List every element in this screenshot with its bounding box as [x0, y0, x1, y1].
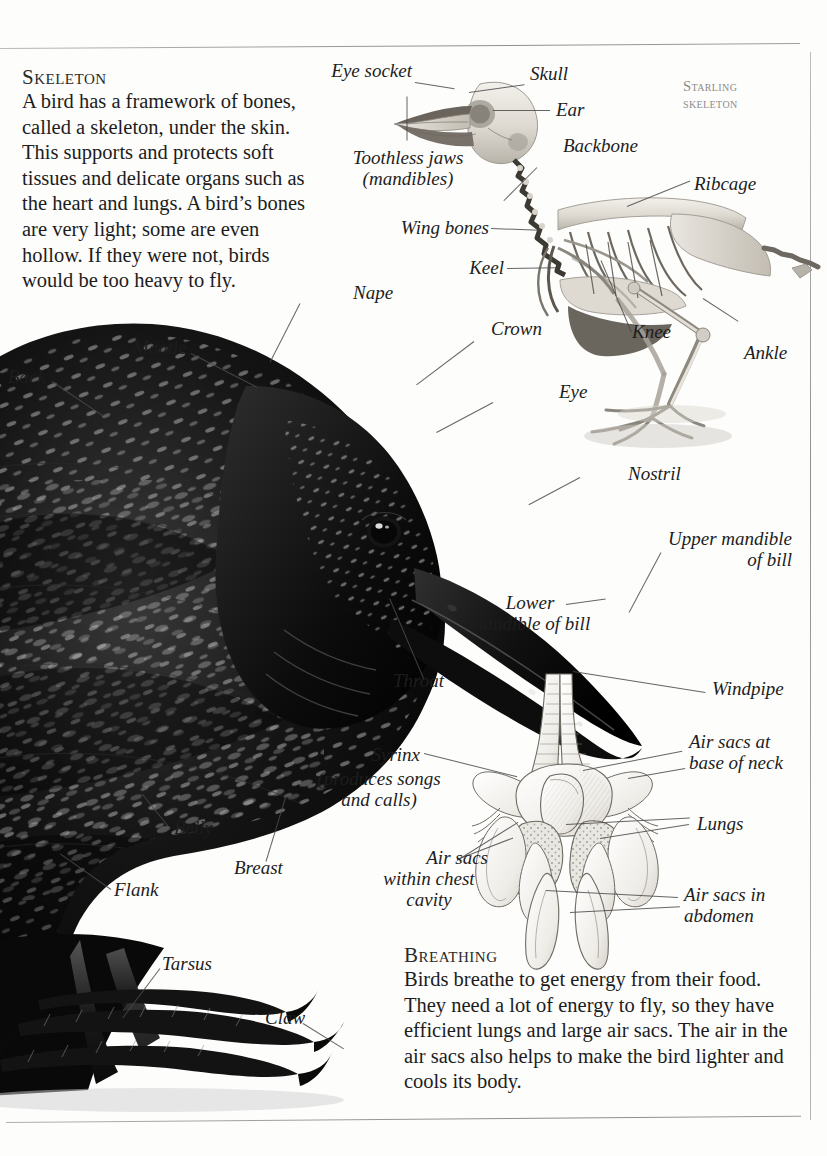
- label-skull: Skull: [530, 63, 568, 84]
- label-mantle: Mantle: [133, 337, 187, 358]
- label-eye: Eye: [559, 381, 587, 402]
- label-upper-mandible: Upper mandible of bill: [640, 528, 792, 570]
- label-air-sacs-neck: Air sacs at base of neck: [689, 731, 783, 773]
- label-lower-mandible-line1: Lower: [452, 592, 608, 613]
- label-upper-mandible-line1: Upper mandible: [640, 528, 792, 549]
- leader-ear: [493, 110, 550, 111]
- label-wing-bones: Wing bones: [365, 217, 489, 238]
- label-flank: Flank: [114, 879, 158, 900]
- figure-caption-starling-skeleton: Starling skeleton: [683, 78, 793, 112]
- figure-caption-line2: skeleton: [683, 95, 793, 112]
- label-lungs: Lungs: [697, 813, 743, 834]
- right-margin-rule: [810, 52, 811, 1120]
- breathing-text-block: Breathing Birds breathe to get energy fr…: [404, 944, 794, 1095]
- label-air-sacs-chest-line1: Air sacs: [370, 847, 488, 868]
- skeleton-heading: Skeleton: [22, 66, 322, 88]
- label-syrinx: Syrinx: [320, 744, 420, 765]
- skeleton-text-block: Skeleton A bird has a framework of bones…: [22, 66, 322, 294]
- figure-caption-line1: Starling: [683, 78, 793, 95]
- label-crown: Crown: [491, 318, 542, 339]
- label-syrinx-note: (produces songs and calls): [306, 768, 452, 810]
- label-air-sacs-chest-line3: cavity: [370, 889, 488, 910]
- label-toothless-jaws-line2: (mandibles): [338, 168, 478, 189]
- label-air-sacs-neck-line1: Air sacs at: [689, 731, 783, 752]
- label-eye-socket: Eye socket: [300, 60, 412, 81]
- label-toothless-jaws-line1: Toothless jaws: [338, 147, 478, 168]
- leader-nostril: [529, 477, 581, 505]
- skeleton-paragraph: A bird has a framework of bones, called …: [22, 89, 322, 294]
- label-air-sacs-abdomen-line2: abdomen: [684, 905, 765, 926]
- top-rule: [0, 43, 800, 49]
- label-air-sacs-chest: Air sacs within chest cavity: [370, 847, 488, 910]
- breathing-paragraph: Birds breathe to get energy from their f…: [404, 967, 794, 1095]
- label-air-sacs-neck-line2: base of neck: [689, 752, 783, 773]
- label-lower-mandible-line2: mandible of bill: [452, 613, 608, 634]
- label-backbone: Backbone: [563, 135, 638, 156]
- label-ankle: Ankle: [744, 342, 787, 363]
- label-air-sacs-chest-line2: within chest: [370, 868, 488, 889]
- label-nostril: Nostril: [628, 463, 681, 484]
- label-claw: Claw: [265, 1007, 305, 1028]
- label-tarsus: Tarsus: [162, 953, 212, 974]
- label-throat: Throat: [393, 670, 444, 691]
- label-air-sacs-abdomen-line1: Air sacs in: [684, 884, 765, 905]
- leader-toothless: [407, 97, 408, 141]
- label-ear: Ear: [556, 99, 585, 120]
- label-lower-mandible: Lower mandible of bill: [452, 592, 608, 634]
- label-syrinx-note-line1: (produces songs: [306, 768, 452, 789]
- label-back: Back: [8, 366, 46, 387]
- label-ribcage: Ribcage: [694, 173, 756, 194]
- breathing-heading: Breathing: [404, 944, 794, 966]
- ear-mark: [508, 133, 528, 151]
- label-toothless-jaws: Toothless jaws (mandibles): [338, 147, 478, 189]
- label-keel: Keel: [418, 257, 504, 278]
- label-breast: Breast: [234, 857, 283, 878]
- label-nape: Nape: [353, 282, 393, 303]
- label-knee: Knee: [632, 321, 671, 342]
- label-air-sacs-abdomen: Air sacs in abdomen: [684, 884, 765, 926]
- respiratory-system-illustration: [438, 672, 698, 972]
- label-syrinx-note-line2: and calls): [306, 789, 452, 810]
- torso-group: [538, 198, 818, 356]
- label-belly: Belly: [174, 817, 213, 838]
- label-windpipe: Windpipe: [712, 678, 784, 699]
- label-upper-mandible-line2: of bill: [640, 549, 792, 570]
- page-canvas: Skeleton A bird has a framework of bones…: [0, 0, 827, 1156]
